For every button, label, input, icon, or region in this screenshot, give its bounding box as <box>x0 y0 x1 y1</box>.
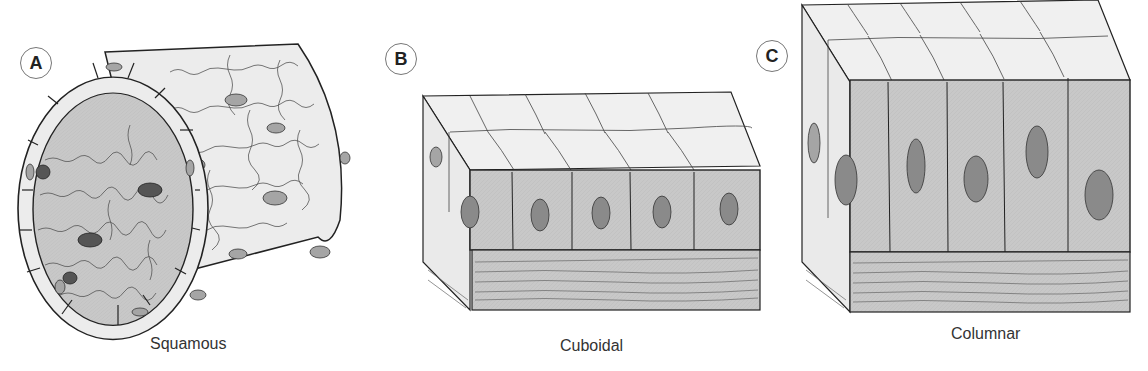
caption-cuboidal: Cuboidal <box>560 337 623 355</box>
squamous-tube <box>18 44 350 339</box>
cuboidal-block <box>423 92 760 310</box>
caption-squamous: Squamous <box>150 335 227 353</box>
panel-label-b: B <box>385 43 417 75</box>
caption-columnar: Columnar <box>951 325 1020 343</box>
epithelium-diagram <box>0 0 1148 371</box>
columnar-block <box>802 0 1130 312</box>
panel-label-a: A <box>20 47 52 79</box>
panel-label-c: C <box>756 40 788 72</box>
